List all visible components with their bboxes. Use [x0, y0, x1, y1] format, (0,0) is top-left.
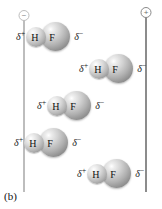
hf-molecule: δ+ H F δ−	[37, 91, 104, 121]
minus-sign: −	[20, 12, 29, 20]
delta-minus-label: δ−	[137, 64, 146, 74]
negative-terminal-icon: −	[19, 10, 30, 21]
hf-atom-pair: H F	[24, 128, 70, 158]
hf-atom-pair: H F	[89, 54, 135, 84]
fluorine-label: F	[110, 170, 116, 180]
minus-charge-superscript: −	[100, 98, 105, 107]
plus-charge-superscript: +	[21, 29, 26, 38]
positive-electrode-line	[145, 17, 147, 192]
hydrogen-label: H	[31, 33, 38, 43]
plus-charge-superscript: +	[84, 61, 89, 70]
minus-charge-superscript: −	[142, 61, 147, 70]
plus-charge-superscript: +	[82, 166, 87, 175]
delta-minus-label: δ−	[135, 169, 144, 179]
minus-charge-superscript: −	[140, 166, 145, 175]
hf-molecule: δ+ H F δ−	[77, 159, 144, 189]
fluorine-label: F	[112, 65, 118, 75]
fluorine-label: F	[47, 139, 53, 149]
delta-plus-label: δ+	[14, 138, 23, 148]
hf-molecule: δ+ H F δ−	[79, 54, 146, 84]
hf-atom-pair: H F	[26, 22, 72, 52]
hydrogen-label: H	[92, 170, 99, 180]
delta-plus-label: δ+	[79, 64, 88, 74]
delta-plus-label: δ+	[16, 32, 25, 42]
hydrogen-label: H	[94, 65, 101, 75]
hf-dipole-alignment-figure: − + δ+ H F δ− δ+ H F δ− δ+	[0, 0, 162, 209]
minus-charge-superscript: −	[79, 29, 84, 38]
positive-terminal-icon: +	[141, 7, 152, 18]
delta-plus-label: δ+	[37, 101, 46, 111]
hydrogen-label: H	[29, 139, 36, 149]
hf-atom-pair: H F	[87, 159, 133, 189]
delta-minus-label: δ−	[74, 32, 83, 42]
plus-sign: +	[142, 9, 151, 17]
fluorine-label: F	[49, 33, 55, 43]
fluorine-label: F	[70, 102, 76, 112]
delta-minus-label: δ−	[72, 138, 81, 148]
figure-caption: (b)	[4, 191, 17, 202]
delta-plus-label: δ+	[77, 169, 86, 179]
hf-molecule: δ+ H F δ−	[14, 128, 81, 158]
minus-charge-superscript: −	[77, 135, 82, 144]
plus-charge-superscript: +	[19, 135, 24, 144]
hf-atom-pair: H F	[47, 91, 93, 121]
hf-molecule: δ+ H F δ−	[16, 22, 83, 52]
hydrogen-label: H	[52, 102, 59, 112]
delta-minus-label: δ−	[95, 101, 104, 111]
plus-charge-superscript: +	[42, 98, 47, 107]
